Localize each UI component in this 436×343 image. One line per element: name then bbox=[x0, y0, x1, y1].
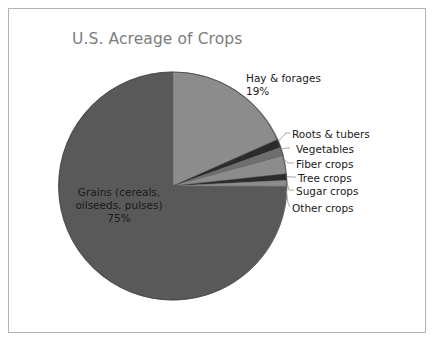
callout-grains-line2: oilseeds, pulses) bbox=[54, 199, 184, 212]
leader-line-roots-tubers bbox=[279, 133, 291, 141]
leader-line-other-crops bbox=[286, 190, 290, 207]
callout-sugar-crops: Sugar crops bbox=[296, 185, 359, 198]
pie-chart-figure: U.S. Acreage of Crops Hay & forages 19% bbox=[0, 0, 436, 343]
leader-line-vegetables bbox=[282, 148, 290, 149]
pie-graphic bbox=[0, 0, 436, 343]
leader-line-sugar-crops bbox=[287, 183, 294, 190]
callout-hay-forages-percent: 19% bbox=[246, 85, 321, 98]
callout-roots-tubers: Roots & tubers bbox=[292, 128, 370, 141]
callout-tree-crops: Tree crops bbox=[298, 172, 352, 185]
callout-grains-line1: Grains (cereals, bbox=[54, 186, 184, 199]
callout-grains: Grains (cereals, oilseeds, pulses) 75% bbox=[54, 186, 184, 225]
callout-hay-forages: Hay & forages 19% bbox=[246, 72, 321, 97]
callout-vegetables: Vegetables bbox=[296, 143, 354, 156]
leader-line-fiber-crops bbox=[285, 160, 294, 163]
callout-fiber-crops: Fiber crops bbox=[296, 158, 353, 171]
callout-hay-forages-name: Hay & forages bbox=[246, 72, 321, 85]
leader-line-tree-crops bbox=[287, 176, 297, 177]
callout-grains-percent: 75% bbox=[54, 212, 184, 225]
callout-other-crops: Other crops bbox=[292, 202, 354, 215]
